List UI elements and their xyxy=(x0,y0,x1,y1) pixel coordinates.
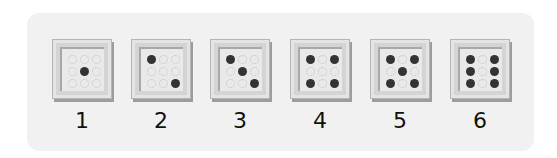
pip-empty-icon xyxy=(318,55,327,64)
pip-cell xyxy=(304,65,316,77)
pip-filled-icon xyxy=(238,67,247,76)
pip-grid xyxy=(464,53,500,89)
pip-empty-icon xyxy=(159,55,168,64)
pip-empty-icon xyxy=(159,67,168,76)
pip-cell xyxy=(236,77,248,89)
pip-cell xyxy=(408,53,420,65)
pip-empty-icon xyxy=(171,67,180,76)
pip-cell xyxy=(224,77,236,89)
die-inner xyxy=(458,47,502,91)
die-inner xyxy=(139,47,183,91)
die-5 xyxy=(370,39,430,99)
pip-filled-icon xyxy=(398,67,407,76)
die-label-1: 1 xyxy=(52,110,112,132)
pip-empty-icon xyxy=(478,67,487,76)
die-1 xyxy=(52,39,112,99)
pip-empty-icon xyxy=(306,67,315,76)
pip-filled-icon xyxy=(226,55,235,64)
die-label-3: 3 xyxy=(210,110,270,132)
pip-empty-icon xyxy=(250,67,259,76)
pip-filled-icon xyxy=(466,67,475,76)
pip-cell xyxy=(169,53,181,65)
die-face xyxy=(52,39,112,99)
pip-empty-icon xyxy=(68,79,77,88)
pip-empty-icon xyxy=(410,67,419,76)
pip-filled-icon xyxy=(490,67,499,76)
pip-cell xyxy=(384,77,396,89)
pip-cell xyxy=(316,65,328,77)
pip-empty-icon xyxy=(147,79,156,88)
die-face xyxy=(450,39,510,99)
pip-filled-icon xyxy=(410,55,419,64)
pip-cell xyxy=(248,77,260,89)
pip-cell xyxy=(66,53,78,65)
pip-cell xyxy=(224,53,236,65)
pip-filled-icon xyxy=(330,55,339,64)
pip-empty-icon xyxy=(92,79,101,88)
pip-cell xyxy=(236,65,248,77)
pip-empty-icon xyxy=(398,55,407,64)
pip-cell xyxy=(408,77,420,89)
pip-empty-icon xyxy=(238,79,247,88)
pip-empty-icon xyxy=(80,55,89,64)
pip-cell xyxy=(157,65,169,77)
pip-empty-icon xyxy=(159,79,168,88)
die-inner xyxy=(60,47,104,91)
pip-cell xyxy=(328,65,340,77)
pip-cell xyxy=(328,77,340,89)
die-face xyxy=(210,39,270,99)
die-label-2: 2 xyxy=(131,110,191,132)
die-face xyxy=(290,39,350,99)
die-6 xyxy=(450,39,510,99)
pip-cell xyxy=(396,77,408,89)
pip-filled-icon xyxy=(171,79,180,88)
pip-filled-icon xyxy=(386,55,395,64)
pip-cell xyxy=(304,77,316,89)
pip-filled-icon xyxy=(410,79,419,88)
pip-cell xyxy=(157,77,169,89)
die-label-4: 4 xyxy=(290,110,350,132)
pip-cell xyxy=(145,77,157,89)
pip-filled-icon xyxy=(490,79,499,88)
pip-filled-icon xyxy=(147,55,156,64)
pip-cell xyxy=(236,53,248,65)
pip-empty-icon xyxy=(171,55,180,64)
die-4 xyxy=(290,39,350,99)
pip-empty-icon xyxy=(92,55,101,64)
pip-grid xyxy=(145,53,181,89)
pip-cell xyxy=(408,65,420,77)
pip-empty-icon xyxy=(92,67,101,76)
pip-cell xyxy=(224,65,236,77)
pip-empty-icon xyxy=(226,67,235,76)
pip-cell xyxy=(78,65,90,77)
die-label-6: 6 xyxy=(450,110,510,132)
pip-filled-icon xyxy=(306,55,315,64)
pip-empty-icon xyxy=(80,79,89,88)
pip-cell xyxy=(145,53,157,65)
pip-filled-icon xyxy=(386,79,395,88)
pip-cell xyxy=(248,53,260,65)
pip-cell xyxy=(90,65,102,77)
pip-grid xyxy=(384,53,420,89)
pip-grid xyxy=(304,53,340,89)
pip-empty-icon xyxy=(68,55,77,64)
pip-cell xyxy=(304,53,316,65)
pip-cell xyxy=(464,53,476,65)
pip-grid xyxy=(66,53,102,89)
pip-filled-icon xyxy=(306,79,315,88)
pip-filled-icon xyxy=(330,79,339,88)
pip-cell xyxy=(488,77,500,89)
pip-filled-icon xyxy=(490,55,499,64)
die-inner xyxy=(378,47,422,91)
die-face xyxy=(131,39,191,99)
die-inner xyxy=(218,47,262,91)
pip-cell xyxy=(78,53,90,65)
pip-empty-icon xyxy=(238,55,247,64)
pip-cell xyxy=(476,65,488,77)
pip-cell xyxy=(78,77,90,89)
die-inner xyxy=(298,47,342,91)
pip-empty-icon xyxy=(398,79,407,88)
pip-cell xyxy=(464,77,476,89)
pip-cell xyxy=(316,53,328,65)
pip-cell xyxy=(488,65,500,77)
